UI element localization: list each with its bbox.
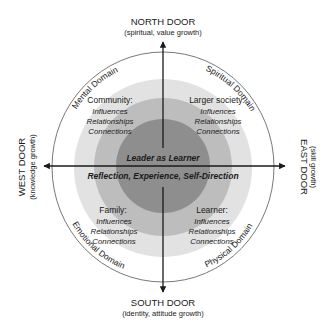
quadrant-title: Larger society:: [189, 95, 245, 105]
east-door-title: EAST DOOR: [299, 139, 310, 195]
quadrant-item: Influences: [200, 107, 236, 116]
quadrant-community: Community: Influences Relationships Conn…: [87, 95, 134, 136]
quadrant-item: Connections: [190, 237, 233, 246]
center-subtitle: Reflection, Experience, Self-Direction: [87, 171, 238, 181]
quadrant-item: Relationships: [195, 117, 242, 126]
quadrant-item: Relationships: [189, 227, 236, 236]
center-title: Leader as Learner: [126, 153, 200, 163]
quadrant-item: Connections: [92, 237, 135, 246]
west-door-subtitle: (knowledge growth): [28, 134, 37, 200]
south-door-subtitle: (identity, attitude growth): [122, 309, 204, 318]
quadrant-item: Relationships: [87, 117, 134, 126]
quadrant-title: Learner:: [196, 205, 228, 215]
quadrant-item: Influences: [194, 217, 230, 226]
west-door-title: WEST DOOR: [16, 138, 27, 197]
north-door-title: NORTH DOOR: [131, 16, 196, 27]
south-door-title: SOUTH DOOR: [131, 297, 196, 308]
quadrant-item: Influences: [92, 107, 128, 116]
medicine-wheel-diagram: NORTH DOOR (spiritual, value growth) SOU…: [0, 0, 325, 333]
quadrant-item: Connections: [196, 127, 239, 136]
quadrant-item: Influences: [96, 217, 132, 226]
quadrant-item: Connections: [88, 127, 131, 136]
quadrant-title: Family:: [99, 205, 126, 215]
east-door-subtitle: (skill growth): [309, 146, 318, 189]
quadrant-title: Community:: [87, 95, 132, 105]
north-door-subtitle: (spiritual, value growth): [124, 28, 202, 37]
quadrant-item: Relationships: [91, 227, 138, 236]
